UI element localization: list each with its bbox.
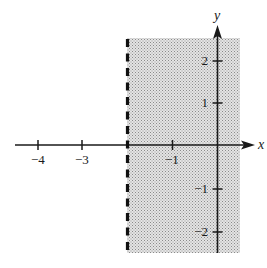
x-axis-label: x bbox=[257, 137, 265, 152]
x-tick-label: −4 bbox=[31, 152, 45, 167]
x-tick-label: −3 bbox=[75, 152, 89, 167]
y-tick-label: 1 bbox=[202, 95, 209, 110]
y-tick-label: −1 bbox=[194, 181, 208, 196]
y-tick-label: −2 bbox=[194, 224, 208, 239]
y-tick-label: 2 bbox=[202, 53, 209, 68]
inequality-graph: x y −4 −3 −1 2 1 −1 −2 bbox=[0, 0, 267, 268]
y-axis-label: y bbox=[212, 8, 221, 23]
x-tick-label: −1 bbox=[165, 152, 179, 167]
